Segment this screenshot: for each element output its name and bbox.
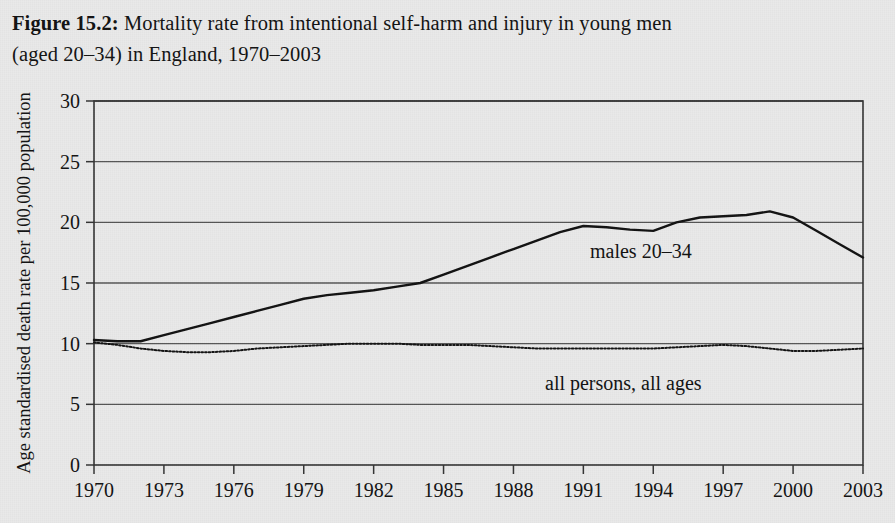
x-axis-tick-label: 1997 bbox=[703, 479, 743, 501]
y-axis-tick-labels-group: 051015202530 bbox=[60, 90, 80, 476]
x-axis-tick-label: 1979 bbox=[284, 479, 324, 501]
series-line-1 bbox=[94, 211, 863, 341]
x-axis-tick-label: 1973 bbox=[144, 479, 184, 501]
x-axis-tick-label: 1991 bbox=[563, 479, 603, 501]
y-axis-tick-label: 10 bbox=[60, 333, 80, 355]
y-axis-title: Age standardised death rate per 100,000 … bbox=[14, 92, 34, 474]
x-axis-tick-label: 1970 bbox=[74, 479, 114, 501]
chart-region: 1970197319761979198219851988199119941997… bbox=[0, 0, 895, 523]
x-axis-ticks-group bbox=[94, 465, 863, 474]
x-axis-tick-label: 1976 bbox=[214, 479, 254, 501]
y-axis-tick-label: 5 bbox=[70, 393, 80, 415]
x-axis-tick-label: 1985 bbox=[424, 479, 464, 501]
y-axis-tick-label: 30 bbox=[60, 90, 80, 112]
series-annotation-1: males 20–34 bbox=[590, 240, 692, 262]
y-axis-tick-label: 25 bbox=[60, 151, 80, 173]
gridlines-group bbox=[94, 101, 863, 404]
y-axis-tick-label: 0 bbox=[70, 454, 80, 476]
series-annotation-2: all persons, all ages bbox=[545, 372, 702, 395]
x-axis-tick-label: 1982 bbox=[354, 479, 394, 501]
line-chart: 1970197319761979198219851988199119941997… bbox=[0, 0, 895, 523]
series-annotations-group: males 20–34all persons, all ages bbox=[545, 240, 702, 395]
y-axis-tick-label: 15 bbox=[60, 272, 80, 294]
y-axis-title-text: Age standardised death rate per 100,000 … bbox=[14, 92, 34, 474]
x-axis-tick-label: 1988 bbox=[493, 479, 533, 501]
x-axis-tick-label: 2003 bbox=[843, 479, 883, 501]
y-axis-tick-label: 20 bbox=[60, 211, 80, 233]
x-axis-tick-label: 1994 bbox=[633, 479, 673, 501]
x-axis-tick-label: 2000 bbox=[773, 479, 813, 501]
data-series-group bbox=[94, 211, 863, 352]
x-axis-tick-labels-group: 1970197319761979198219851988199119941997… bbox=[74, 479, 883, 501]
y-axis-ticks-group bbox=[86, 101, 94, 465]
